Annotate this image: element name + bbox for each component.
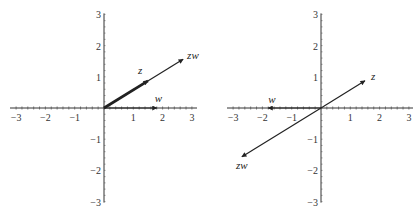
- x-tick-label: 1: [348, 112, 353, 123]
- y-tick-label: −2: [307, 165, 318, 176]
- y-tick-label: 1: [96, 72, 101, 83]
- y-tick-label: 1: [313, 72, 318, 83]
- y-tick-label: 2: [313, 41, 318, 52]
- x-tick-label: 1: [131, 112, 136, 123]
- vector-label-w: w: [268, 93, 276, 105]
- y-tick-label: −3: [90, 197, 101, 208]
- plot-2: −3−2−1123321−1−2−3zwzw: [227, 9, 413, 207]
- x-tick-label: 3: [406, 112, 411, 123]
- vector-z: [321, 81, 365, 108]
- vector-label-z: z: [370, 70, 376, 82]
- vector-label-zw: zw: [186, 49, 199, 61]
- x-tick-label: −2: [257, 112, 268, 123]
- y-tick-label: −3: [307, 197, 318, 208]
- y-tick-label: 3: [96, 9, 101, 20]
- y-tick-label: 2: [96, 41, 101, 52]
- x-tick-label: −2: [40, 112, 51, 123]
- vector-zw: [104, 59, 183, 108]
- y-tick-label: 3: [313, 9, 318, 20]
- x-tick-label: 2: [160, 112, 165, 123]
- vector-label-z: z: [137, 64, 143, 76]
- y-tick-label: −2: [90, 165, 101, 176]
- x-tick-label: −1: [69, 112, 80, 123]
- y-tick-label: −1: [90, 134, 101, 145]
- vector-plots: −3−2−1123321−1−2−3zwzw−3−2−1123321−1−2−3…: [0, 0, 420, 218]
- x-tick-label: 2: [377, 112, 382, 123]
- vector-label-w: w: [155, 92, 163, 104]
- y-tick-label: −1: [307, 134, 318, 145]
- vector-label-zw: zw: [235, 159, 248, 171]
- x-tick-label: −1: [286, 112, 297, 123]
- x-tick-label: 3: [189, 112, 194, 123]
- plot-1: −3−2−1123321−1−2−3zwzw: [10, 9, 199, 207]
- x-tick-label: −3: [11, 112, 22, 123]
- x-tick-label: −3: [228, 112, 239, 123]
- vector-zw: [242, 108, 321, 157]
